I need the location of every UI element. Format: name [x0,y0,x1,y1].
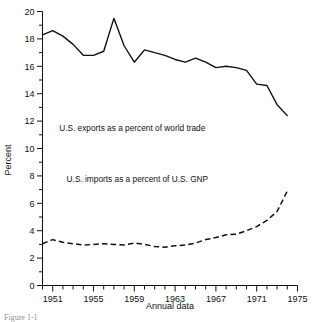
y-tick-label: 18 [24,34,34,44]
x-axis-title: Annual data [146,301,194,311]
y-tick-label: 4 [29,226,34,236]
y-tick-label: 8 [29,171,34,181]
line-chart: 02468101214161820 1951195519591963196719… [0,0,313,322]
data-series [43,18,288,247]
x-tick-label: 1959 [124,294,144,304]
y-tick-label: 12 [24,116,34,126]
exports-series-label: U.S. exports as a percent of world trade [59,123,206,133]
y-tick-label: 2 [29,253,34,263]
y-tick-label: 20 [24,7,34,17]
figure-caption: Figure 1-1 [4,313,309,322]
x-tick-label: 1967 [206,294,226,304]
y-tick-label: 0 [29,281,34,291]
y-tick-label: 6 [29,199,34,209]
chart-figure: 02468101214161820 1951195519591963196719… [0,0,313,322]
x-tick-label: 1951 [43,294,63,304]
x-tick-label: 1971 [247,294,267,304]
y-tick-label: 16 [24,62,34,72]
x-tick-label: 1975 [287,294,307,304]
y-axis-title: Percent [3,144,13,176]
y-axis: 02468101214161820 [24,7,42,291]
y-tick-label: 10 [24,144,34,154]
y-tick-label: 14 [24,89,34,99]
imports-series-label: U.S. imports as a percent of U.S. GNP [67,174,209,184]
imports-line [43,191,288,247]
series-annotations: U.S. exports as a percent of world trade… [59,123,208,184]
x-tick-label: 1955 [83,294,103,304]
exports-line [43,18,288,115]
